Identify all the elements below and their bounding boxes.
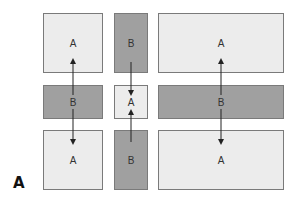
box-label: B	[218, 97, 225, 108]
box-label: A	[70, 155, 77, 166]
middle-top-box-b: B	[114, 13, 148, 73]
box-label: A	[70, 38, 77, 49]
box-label: B	[128, 38, 135, 49]
left-middle-box-b: B	[43, 85, 103, 119]
middle-middle-box-a: A	[114, 85, 148, 119]
middle-bottom-box-b: B	[114, 130, 148, 190]
right-top-box-a: A	[158, 13, 284, 73]
box-label: A	[218, 38, 225, 49]
box-label: B	[128, 155, 135, 166]
right-bottom-box-a: A	[158, 130, 284, 190]
right-middle-box-b: B	[158, 85, 284, 119]
panel-label: A	[13, 174, 25, 192]
left-bottom-box-a: A	[43, 130, 103, 190]
box-label: A	[218, 155, 225, 166]
left-top-box-a: A	[43, 13, 103, 73]
box-label: B	[70, 97, 77, 108]
box-label: A	[128, 97, 135, 108]
